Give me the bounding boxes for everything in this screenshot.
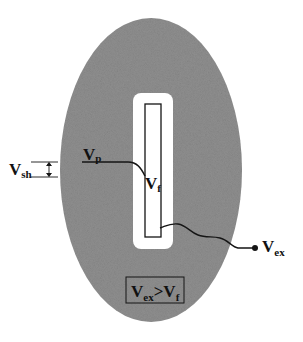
diagram-canvas: Vsh Vp Vf Vex Vex>Vf [0,0,303,342]
label-v-sh: Vsh [9,160,32,180]
v-sh-dimension-marker [31,162,58,177]
terminal-dot-vex [252,245,258,251]
label-condition: Vex>Vf [131,282,180,303]
label-v-ex: Vex [262,237,285,258]
